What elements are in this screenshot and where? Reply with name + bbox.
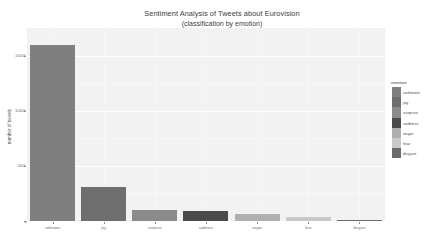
bar-anger[interactable] (235, 214, 280, 221)
bar-unknown[interactable] (30, 45, 75, 221)
legend-label-joy: joy (403, 100, 408, 105)
bar-joy[interactable] (81, 187, 126, 221)
bar-surprise[interactable] (132, 210, 177, 221)
bar-fear[interactable] (286, 217, 331, 221)
x-tick-mark (359, 222, 360, 224)
legend-swatch-surprise (392, 107, 401, 117)
x-tick-label-joy: joy (101, 225, 106, 230)
legend-swatch-unknown (392, 87, 401, 97)
x-tick-label-fear: fear (305, 225, 312, 230)
x-tick-mark (308, 222, 309, 224)
y-axis: number of tweets 050001000015000 (0, 28, 27, 221)
legend-item-disgust[interactable]: disgust (392, 148, 401, 158)
legend-keys: unknownjoysurprisesadnessangerfeardisgus… (392, 87, 401, 158)
legend-item-joy[interactable]: joy (392, 97, 401, 107)
legend-label-surprise: surprise (403, 110, 418, 115)
x-tick-mark (257, 222, 258, 224)
bars-layer (27, 28, 385, 221)
legend-item-fear[interactable]: fear (392, 138, 401, 148)
y-tick-mark (24, 221, 26, 222)
x-tick-label-unknown: unknown (45, 225, 61, 230)
x-tick-label-sadness: sadness (199, 225, 214, 230)
legend-label-disgust: disgust (403, 151, 416, 156)
legend-swatch-sadness (392, 118, 401, 128)
chart-subtitle: (classification by emotion) (0, 19, 444, 28)
legend-item-unknown[interactable]: unknown (392, 87, 401, 97)
legend-label-anger: anger (403, 131, 414, 136)
chart-title: Sentiment Analysis of Tweets about Eurov… (0, 9, 444, 18)
legend-item-surprise[interactable]: surprise (392, 107, 401, 117)
legend-swatch-disgust (392, 148, 401, 158)
x-tick-label-surprise: surprise (148, 225, 162, 230)
legend-swatch-joy (392, 97, 401, 107)
legend-label-sadness: sadness (403, 121, 419, 126)
legend-swatch-fear (392, 138, 401, 148)
x-tick-mark (53, 222, 54, 224)
legend-swatch-anger (392, 128, 401, 138)
x-tick-mark (104, 222, 105, 224)
x-tick-mark (206, 222, 207, 224)
plot-panel (27, 28, 385, 221)
bar-disgust[interactable] (337, 220, 382, 221)
chart-figure: Sentiment Analysis of Tweets about Eurov… (0, 0, 444, 246)
chart-title-block: Sentiment Analysis of Tweets about Eurov… (0, 9, 444, 28)
bar-sadness[interactable] (183, 211, 228, 221)
x-tick-label-anger: anger (252, 225, 262, 230)
x-tick-label-disgust: disgust (353, 225, 365, 230)
legend-title: emotion (391, 80, 407, 85)
legend-label-unknown: unknown (403, 90, 420, 95)
legend-item-sadness[interactable]: sadness (392, 118, 401, 128)
x-tick-mark (155, 222, 156, 224)
legend-item-anger[interactable]: anger (392, 128, 401, 138)
legend-label-fear: fear (403, 141, 410, 146)
y-axis-label: number of tweets (7, 90, 12, 164)
